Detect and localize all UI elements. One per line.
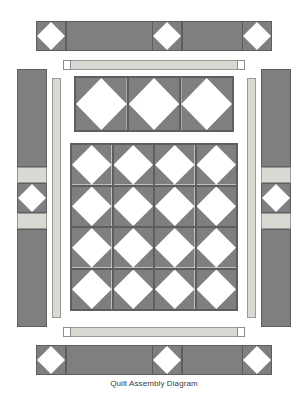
hst-unit xyxy=(92,228,112,248)
hst-unit xyxy=(175,289,195,309)
hst-unit xyxy=(32,198,46,212)
hst-unit xyxy=(101,78,126,104)
hst-unit xyxy=(92,165,112,185)
hst-unit xyxy=(262,198,276,212)
hst-unit xyxy=(133,248,153,268)
hst-unit xyxy=(175,248,195,268)
hst-unit xyxy=(51,360,65,374)
hst-unit xyxy=(72,145,92,165)
right-border-segment-bottom xyxy=(261,229,291,327)
left-border-segment-top xyxy=(17,69,47,167)
hst-unit xyxy=(51,36,65,50)
hst-unit xyxy=(154,78,179,104)
right-border-spacer-bottom xyxy=(261,213,291,229)
hst-unit xyxy=(262,184,276,198)
hst-unit xyxy=(155,228,175,248)
left-border-spacer-bottom xyxy=(17,213,47,229)
hst-unit xyxy=(133,145,153,165)
hst-unit xyxy=(92,206,112,226)
bottom-border-pinwheel-left xyxy=(36,345,66,375)
hst-unit xyxy=(18,198,32,212)
main-block-panel xyxy=(70,143,238,311)
hst-unit xyxy=(155,145,175,165)
hst-unit xyxy=(114,187,134,207)
hst-unit xyxy=(257,360,271,374)
pinwheel-block xyxy=(196,269,238,311)
hst-unit xyxy=(155,270,175,290)
hst-unit xyxy=(207,78,232,104)
left-border-pinwheel-center xyxy=(17,183,47,213)
hst-unit xyxy=(133,228,153,248)
right-sashing-strip xyxy=(247,78,256,318)
hst-unit xyxy=(175,228,195,248)
hst-unit xyxy=(243,36,257,50)
pinwheel-block xyxy=(75,77,128,131)
hst-unit xyxy=(175,165,195,185)
pinwheel-block xyxy=(71,144,113,186)
pinwheel-block xyxy=(71,227,113,269)
right-border-strip xyxy=(261,69,291,327)
hst-unit xyxy=(155,187,175,207)
hst-unit xyxy=(92,248,112,268)
hst-unit xyxy=(207,104,232,130)
hst-unit xyxy=(216,145,236,165)
sashing-end-square-left xyxy=(63,60,71,70)
hst-unit xyxy=(197,145,217,165)
left-sashing-strip xyxy=(52,78,61,318)
top-border-pinwheel-right xyxy=(242,21,272,51)
hst-unit xyxy=(72,165,92,185)
hst-unit xyxy=(175,206,195,226)
hst-unit xyxy=(167,36,181,50)
right-border-pinwheel-center xyxy=(261,183,291,213)
hst-unit xyxy=(276,198,290,212)
hst-unit xyxy=(72,289,92,309)
hst-unit xyxy=(37,22,51,36)
hst-unit xyxy=(167,346,181,360)
hst-unit xyxy=(153,22,167,36)
pinwheel-block xyxy=(71,186,113,228)
hst-unit xyxy=(153,360,167,374)
hst-unit xyxy=(18,184,32,198)
hst-unit xyxy=(167,360,181,374)
hst-unit xyxy=(37,346,51,360)
left-border-spacer-top xyxy=(17,167,47,183)
upper-block-panel xyxy=(74,76,234,132)
hst-unit xyxy=(167,22,181,36)
pinwheel-block xyxy=(71,269,113,311)
hst-unit xyxy=(181,104,206,130)
pinwheel-block xyxy=(154,269,196,311)
bottom-border-pinwheel-right xyxy=(242,345,272,375)
hst-unit xyxy=(216,187,236,207)
hst-unit xyxy=(197,289,217,309)
hst-unit xyxy=(175,187,195,207)
top-border-pinwheel-left xyxy=(36,21,66,51)
hst-unit xyxy=(243,360,257,374)
hst-unit xyxy=(216,165,236,185)
pinwheel-block xyxy=(113,186,155,228)
bottom-sashing-strip xyxy=(63,327,245,337)
hst-unit xyxy=(133,289,153,309)
pinwheel-block xyxy=(180,77,233,131)
hst-unit xyxy=(114,145,134,165)
hst-unit xyxy=(37,360,51,374)
hst-unit xyxy=(155,289,175,309)
hst-unit xyxy=(175,145,195,165)
hst-unit xyxy=(114,165,134,185)
hst-unit xyxy=(197,206,217,226)
hst-unit xyxy=(216,228,236,248)
hst-unit xyxy=(276,184,290,198)
pinwheel-block xyxy=(196,227,238,269)
hst-unit xyxy=(216,248,236,268)
top-border-segment-1 xyxy=(66,21,156,51)
sashing-end-square-left xyxy=(63,327,71,337)
pinwheel-block xyxy=(154,144,196,186)
hst-unit xyxy=(181,78,206,104)
hst-unit xyxy=(72,187,92,207)
hst-unit xyxy=(197,248,217,268)
top-border-strip xyxy=(36,21,272,51)
left-border-strip xyxy=(17,69,47,327)
hst-unit xyxy=(51,346,65,360)
hst-unit xyxy=(129,78,154,104)
hst-unit xyxy=(101,104,126,130)
hst-unit xyxy=(92,145,112,165)
